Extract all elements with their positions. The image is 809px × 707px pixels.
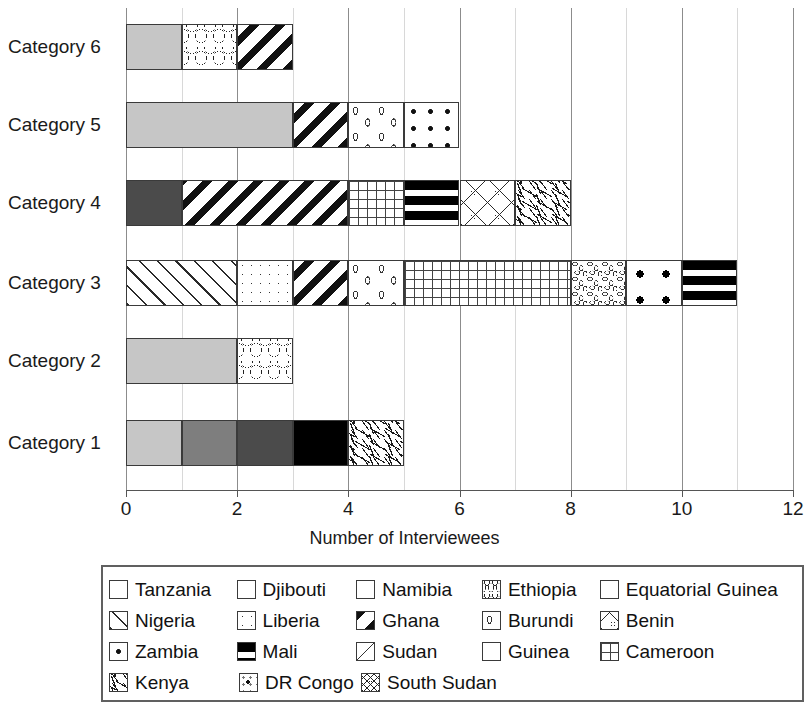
bar-segment-burundi[interactable] xyxy=(348,102,404,148)
legend-row: ZambiaMaliSudanGuineaCameroon xyxy=(109,636,796,667)
legend-item-cameroon[interactable]: Cameroon xyxy=(600,642,796,661)
bar-segment-tanzania[interactable] xyxy=(126,24,182,70)
legend-label: Cameroon xyxy=(626,642,715,661)
gridline-major xyxy=(571,8,572,490)
bar-segment-ghana[interactable] xyxy=(237,24,293,70)
legend-swatch-icon xyxy=(356,642,375,661)
legend-item-ghana[interactable]: Ghana xyxy=(356,611,482,630)
legend-label: Namibia xyxy=(382,580,452,599)
legend-label: Zambia xyxy=(135,642,198,661)
x-tick-label: 4 xyxy=(323,498,373,520)
bar-segment-ghana[interactable] xyxy=(182,180,349,226)
bar-segment-benin[interactable] xyxy=(460,180,516,226)
bar-segment-djibouti[interactable] xyxy=(182,420,238,466)
bar-segment-zambia[interactable] xyxy=(404,102,460,148)
x-tick-label: 6 xyxy=(435,498,485,520)
bar-segment-tanzania[interactable] xyxy=(126,102,293,148)
legend-label: Guinea xyxy=(508,642,569,661)
x-axis-title: Number of Interviewees xyxy=(0,528,809,549)
legend-swatch-icon xyxy=(356,611,375,630)
legend-swatch-icon xyxy=(109,642,128,661)
x-tick-label: 2 xyxy=(212,498,262,520)
x-tick xyxy=(348,490,349,497)
bar-segment-ghana[interactable] xyxy=(293,260,349,306)
bar-segment-namibia[interactable] xyxy=(237,420,293,466)
x-tick xyxy=(460,490,461,497)
bar-segment-mali[interactable] xyxy=(404,180,460,226)
bar-category-4[interactable] xyxy=(126,180,571,226)
bar-segment-mali[interactable] xyxy=(682,260,738,306)
bar-segment-kenya[interactable] xyxy=(348,420,404,466)
legend-item-south-sudan[interactable]: South Sudan xyxy=(361,673,561,692)
legend-item-benin[interactable]: Benin xyxy=(600,611,796,630)
bar-category-1[interactable] xyxy=(126,420,404,466)
legend-item-ethiopia[interactable]: Ethiopia xyxy=(482,580,600,599)
legend-swatch-icon xyxy=(600,611,619,630)
bar-segment-tanzania[interactable] xyxy=(126,338,237,384)
bar-segment-kenya[interactable] xyxy=(515,180,571,226)
bar-category-3[interactable] xyxy=(126,260,737,306)
legend-label: Liberia xyxy=(263,611,320,630)
x-tick-label: 8 xyxy=(546,498,596,520)
legend-item-zambia[interactable]: Zambia xyxy=(109,642,237,661)
gridline-minor xyxy=(293,8,294,490)
legend-row: KenyaDR CongoSouth Sudan xyxy=(109,667,796,698)
bar-segment-south-sudan[interactable] xyxy=(571,260,627,306)
x-tick xyxy=(571,490,572,497)
bar-segment-namibia[interactable] xyxy=(126,180,182,226)
x-tick xyxy=(237,490,238,497)
x-tick xyxy=(793,490,794,497)
legend-item-guinea[interactable]: Guinea xyxy=(482,642,600,661)
bar-segment-cameroon[interactable] xyxy=(404,260,571,306)
legend-item-burundi[interactable]: Burundi xyxy=(482,611,600,630)
category-label-category-6: Category 6 xyxy=(8,36,120,58)
legend: TanzaniaDjiboutiNamibiaEthiopiaEquatoria… xyxy=(101,565,804,702)
legend-item-kenya[interactable]: Kenya xyxy=(109,673,239,692)
bar-segment-guinea[interactable] xyxy=(626,260,682,306)
legend-item-sudan[interactable]: Sudan xyxy=(356,642,482,661)
legend-item-equatorial-guinea[interactable]: Equatorial Guinea xyxy=(600,580,796,599)
gridline-major xyxy=(237,8,238,490)
legend-item-dr-congo[interactable]: DR Congo xyxy=(239,673,361,692)
legend-swatch-icon xyxy=(237,580,256,599)
gridline-major xyxy=(793,8,794,490)
bar-segment-equatorial-guinea[interactable] xyxy=(293,420,349,466)
legend-item-liberia[interactable]: Liberia xyxy=(237,611,357,630)
legend-label: Mali xyxy=(263,642,298,661)
bar-segment-ethiopia[interactable] xyxy=(237,338,293,384)
legend-swatch-icon xyxy=(109,673,128,692)
x-tick-label: 10 xyxy=(657,498,707,520)
bar-category-2[interactable] xyxy=(126,338,293,384)
bar-segment-burundi[interactable] xyxy=(348,260,404,306)
category-label-category-4: Category 4 xyxy=(8,192,120,214)
bar-segment-ghana[interactable] xyxy=(293,102,349,148)
gridline-major xyxy=(348,8,349,490)
bar-segment-nigeria[interactable] xyxy=(126,260,237,306)
legend-item-tanzania[interactable]: Tanzania xyxy=(109,580,237,599)
bar-category-5[interactable] xyxy=(126,102,460,148)
bar-category-6[interactable] xyxy=(126,24,293,70)
legend-item-mali[interactable]: Mali xyxy=(237,642,357,661)
legend-swatch-icon xyxy=(237,611,256,630)
legend-swatch-icon xyxy=(109,580,128,599)
bar-segment-tanzania[interactable] xyxy=(126,420,182,466)
legend-item-namibia[interactable]: Namibia xyxy=(356,580,482,599)
legend-row: NigeriaLiberiaGhanaBurundiBenin xyxy=(109,605,796,636)
legend-label: Sudan xyxy=(382,642,437,661)
bar-segment-ethiopia[interactable] xyxy=(182,24,238,70)
x-tick-label: 12 xyxy=(768,498,809,520)
legend-item-nigeria[interactable]: Nigeria xyxy=(109,611,237,630)
legend-label: Djibouti xyxy=(263,580,326,599)
legend-label: Nigeria xyxy=(135,611,195,630)
gridline-minor xyxy=(737,8,738,490)
legend-swatch-icon xyxy=(482,580,501,599)
legend-swatch-icon xyxy=(356,580,375,599)
legend-label: Kenya xyxy=(135,673,189,692)
x-tick xyxy=(682,490,683,497)
bar-segment-liberia[interactable] xyxy=(237,260,293,306)
category-label-category-1: Category 1 xyxy=(8,432,120,454)
category-label-category-3: Category 3 xyxy=(8,272,120,294)
legend-item-djibouti[interactable]: Djibouti xyxy=(237,580,357,599)
chart-root: Category 6Category 5Category 4Category 3… xyxy=(0,0,809,707)
bar-segment-cameroon[interactable] xyxy=(348,180,404,226)
